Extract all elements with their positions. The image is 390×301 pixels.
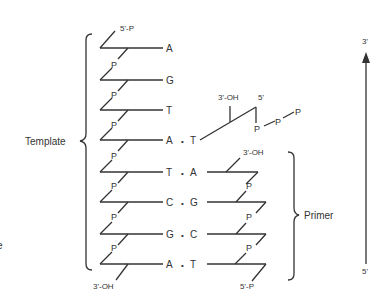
- phosphate-label: P: [111, 181, 117, 191]
- template-base-5: T: [166, 167, 172, 178]
- axis-three-prime-label: 3': [362, 37, 368, 46]
- partner-base-5: T: [190, 259, 196, 270]
- phosphate-label: P: [246, 243, 252, 253]
- phosphate-label: P: [246, 181, 252, 191]
- diagram-labels: 5'-P A G T A T C G A • • • • • T A G C T…: [0, 0, 390, 301]
- template-label: Template: [25, 136, 66, 147]
- triphosphate-p1: P: [254, 124, 260, 134]
- partner-base-2: A: [190, 167, 197, 178]
- incoming-five-prime-label: 5': [258, 93, 264, 102]
- phosphate-label: P: [111, 90, 117, 100]
- template-base-8: A: [166, 259, 173, 270]
- phosphate-label: P: [111, 243, 117, 253]
- pair-dot: •: [181, 169, 184, 178]
- partner-base-3: G: [190, 197, 198, 208]
- template-base-3: T: [166, 105, 172, 116]
- template-base-7: G: [166, 229, 174, 240]
- phosphate-label: P: [111, 120, 117, 130]
- template-base-1: A: [166, 43, 173, 54]
- template-base-4: A: [166, 135, 173, 146]
- pair-dot: •: [181, 231, 184, 240]
- phosphate-label: P: [111, 151, 117, 161]
- phosphate-label: P: [111, 60, 117, 70]
- partner-base-1: T: [190, 135, 196, 146]
- left-edge-fragment: e: [0, 240, 3, 251]
- triphosphate-p3: P: [295, 107, 301, 117]
- primer-label: Primer: [304, 210, 334, 221]
- template-base-2: G: [166, 75, 174, 86]
- pair-dot: •: [181, 261, 184, 270]
- pair-dot: •: [181, 137, 184, 146]
- template-base-6: C: [166, 197, 173, 208]
- five-prime-p-top-label: 5'-P: [120, 24, 134, 33]
- axis-five-prime-label: 5': [362, 267, 368, 276]
- primer-five-prime-p-label: 5'-P: [240, 282, 254, 291]
- pair-dot: •: [181, 199, 184, 208]
- incoming-three-prime-oh-label: 3'-OH: [218, 93, 239, 102]
- phosphate-label: P: [246, 212, 252, 222]
- primer-three-prime-oh-label: 3'-OH: [243, 148, 264, 157]
- partner-base-4: C: [190, 229, 197, 240]
- triphosphate-p2: P: [275, 117, 281, 127]
- phosphate-label: P: [111, 212, 117, 222]
- three-prime-oh-bottom-label: 3'-OH: [93, 282, 114, 291]
